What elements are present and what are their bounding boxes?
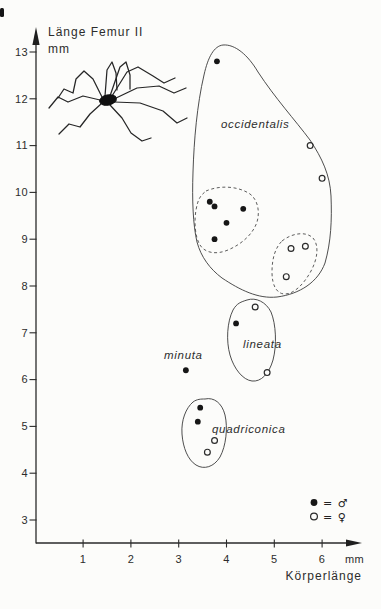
data-point-occidentalis-female	[283, 274, 289, 280]
x-tick-label: 3	[175, 553, 182, 565]
y-axis-unit: mm	[48, 42, 70, 56]
data-point-occidentalis-male	[212, 236, 218, 242]
data-point-occidentalis-female	[302, 243, 308, 249]
y-axis-title: Länge Femur II	[48, 25, 143, 39]
legend-male-label: = ♂	[323, 497, 349, 510]
species-label-lineata: lineata	[243, 338, 282, 350]
x-tick-label: 6	[319, 553, 326, 565]
spider-illustration	[49, 62, 187, 141]
data-point-occidentalis-male	[207, 199, 213, 205]
y-tick-label: 10	[15, 186, 28, 198]
legend: = ♂ = ♀	[311, 497, 349, 524]
y-tick-label: 8	[21, 280, 28, 292]
data-point-occidentalis-female	[307, 143, 313, 149]
species-label-minuta: minuta	[164, 349, 203, 361]
data-point-occidentalis-female	[288, 246, 294, 252]
data-point-occidentalis-male	[240, 206, 246, 212]
y-tick-label: 3	[21, 514, 28, 526]
y-tick-label: 9	[21, 233, 28, 245]
x-axis-title: Körperlänge	[286, 569, 362, 583]
scatter-plot-svg: Länge Femur II mm mm Körperlänge 3456789…	[0, 0, 381, 609]
x-tick-label: 1	[80, 553, 87, 565]
data-point-occidentalis-male	[224, 220, 230, 226]
data-point-occidentalis-male	[212, 204, 218, 210]
data-point-quadriconica-female	[212, 438, 218, 444]
occidentalis-female-suboutline	[272, 234, 317, 294]
y-axis	[32, 27, 39, 544]
scatter-figure: Länge Femur II mm mm Körperlänge 3456789…	[0, 0, 381, 609]
y-tick-label: 5	[21, 420, 28, 432]
x-tick-label: 2	[128, 553, 135, 565]
data-point-quadriconica-male	[197, 405, 203, 411]
data-point-lineata-male	[233, 321, 239, 327]
data-point-occidentalis-male	[214, 58, 220, 64]
x-axis-arrow-icon	[346, 539, 362, 546]
y-tick-label: 4	[21, 467, 28, 479]
data-point-quadriconica-female	[204, 449, 210, 455]
y-tick-label: 6	[21, 373, 28, 385]
data-point-lineata-female	[264, 370, 270, 376]
x-tick-label: 4	[223, 553, 230, 565]
y-axis-arrow-icon	[32, 27, 39, 45]
data-point-occidentalis-female	[319, 175, 325, 181]
species-labels: occidentalislineataminutaquadriconica	[164, 118, 290, 435]
data-point-minuta-male	[183, 367, 189, 373]
species-label-quadriconica: quadriconica	[212, 423, 286, 435]
y-tick-label: 7	[21, 327, 28, 339]
y-tick-label: 12	[15, 93, 28, 105]
species-label-occidentalis: occidentalis	[221, 118, 290, 130]
legend-filled-circle-icon	[311, 499, 318, 506]
occidentalis-outline	[193, 45, 332, 297]
x-tick-label: 5	[271, 553, 278, 565]
scan-artifact	[0, 8, 4, 17]
y-tick-label: 13	[15, 46, 28, 58]
y-tick-label: 11	[16, 139, 28, 151]
legend-open-circle-icon	[311, 513, 318, 520]
data-point-lineata-female	[252, 304, 258, 310]
data-point-quadriconica-male	[195, 419, 201, 425]
x-axis-unit: mm	[345, 553, 364, 565]
legend-female-label: = ♀	[323, 511, 347, 524]
x-axis	[36, 539, 362, 546]
